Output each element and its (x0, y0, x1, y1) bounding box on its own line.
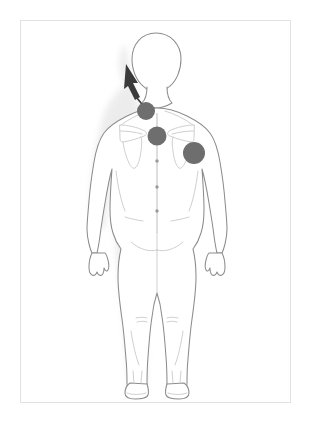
body-chart-app: posterior human body outline, back view … (0, 0, 311, 423)
spine-tick-dot (155, 159, 158, 162)
illustration-frame: posterior human body outline, back view … (20, 20, 291, 403)
marker-upper-back[interactable] (148, 127, 167, 146)
body-figure-canvas[interactable] (21, 21, 292, 404)
marker-neck[interactable] (137, 102, 155, 120)
spine-tick-dot (155, 185, 158, 188)
body-figure-svg (21, 21, 292, 404)
spine-tick-dot (155, 209, 158, 212)
marker-right-shoulder[interactable] (183, 142, 205, 164)
